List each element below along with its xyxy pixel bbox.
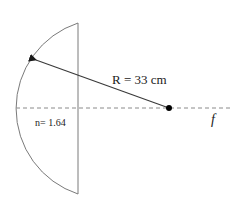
- center-of-curvature-dot: [166, 105, 172, 111]
- refractive-index-label: n= 1.64: [35, 117, 66, 128]
- focal-point-label: f: [211, 112, 217, 127]
- radius-label: R = 33 cm: [112, 72, 167, 87]
- lens-diagram: R = 33 cm n= 1.64 f: [0, 0, 244, 207]
